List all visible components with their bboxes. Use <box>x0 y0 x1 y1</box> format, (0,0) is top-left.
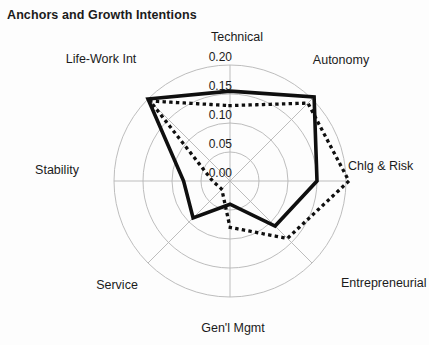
radial-tick-label-0.00: 0.00 <box>209 166 233 180</box>
axis-label-life-work-int: Life-Work Int <box>66 52 137 66</box>
radar-series <box>148 91 349 238</box>
axis-label-technical: Technical <box>211 30 263 44</box>
axis-labels: Technical Autonomy Chlg & Risk Entrepren… <box>35 30 426 335</box>
radial-tick-label-0.15: 0.15 <box>209 79 233 93</box>
axis-label-service: Service <box>96 278 138 292</box>
radial-tick-label-0.10: 0.10 <box>209 108 233 122</box>
series-solid-polygon <box>148 91 317 226</box>
axis-spoke <box>230 181 312 263</box>
axis-spoke <box>230 99 312 181</box>
radial-tick-labels: 0.00 0.05 0.10 0.15 0.20 <box>209 50 233 180</box>
axis-label-autonomy: Autonomy <box>313 53 370 67</box>
radar-chart: 0.00 0.05 0.10 0.15 0.20 Technical Auton… <box>0 0 429 345</box>
axis-label-entrepreneurial: Entrepreneurial <box>341 276 426 290</box>
radar-chart-figure: Anchors and Growth Intentions 0.00 0.05 … <box>0 0 429 345</box>
radial-tick-label-0.05: 0.05 <box>209 137 233 151</box>
axis-label-chlg-and-risk: Chlg & Risk <box>348 159 414 173</box>
axis-label-genl-mgmt: Gen'l Mgmt <box>201 321 265 335</box>
axis-spoke <box>148 181 230 263</box>
radial-tick-label-0.20: 0.20 <box>209 50 233 64</box>
axis-label-stability: Stability <box>35 163 80 177</box>
